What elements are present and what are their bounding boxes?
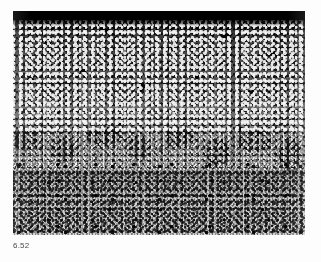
grayscale-micrograph bbox=[13, 11, 305, 235]
figure-block: 6.52 bbox=[0, 0, 321, 262]
micrograph-isolated-specks bbox=[13, 161, 305, 235]
micrograph-top-band-fade bbox=[13, 19, 305, 26]
figure-number-caption: 6.52 bbox=[13, 241, 29, 251]
